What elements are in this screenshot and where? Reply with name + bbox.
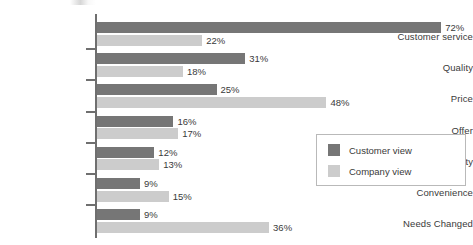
bar-value-label: 72% <box>445 22 464 33</box>
bar-value-label: 25% <box>221 84 240 95</box>
legend-item-company-view: Company view <box>328 165 411 177</box>
axis-tick <box>86 111 95 113</box>
bar-customer-view <box>97 22 441 33</box>
bar-value-label: 9% <box>144 178 158 189</box>
axis-tick <box>86 173 95 175</box>
bar-value-label: 15% <box>173 191 192 202</box>
bar-value-label: 18% <box>187 66 206 77</box>
chart-legend: Customer view Company view <box>316 134 466 186</box>
category-label: Needs Changed <box>385 218 473 229</box>
bar-customer-view <box>97 178 140 189</box>
bar-value-label: 13% <box>163 159 182 170</box>
bar-value-label: 48% <box>330 97 349 108</box>
category-label: Price <box>385 93 473 104</box>
bar-value-label: 12% <box>158 147 177 158</box>
axis-tick <box>86 79 95 81</box>
axis-tick <box>86 142 95 144</box>
bar-value-label: 31% <box>249 53 268 64</box>
bar-chart: Customer serviceQualityPriceOfferFunctio… <box>0 0 473 245</box>
legend-item-customer-view: Customer view <box>328 144 412 156</box>
bar-customer-view <box>97 209 140 220</box>
bar-company-view <box>97 66 183 77</box>
bar-value-label: 9% <box>144 209 158 220</box>
legend-swatch-customer-view <box>328 144 340 156</box>
bar-company-view <box>97 97 326 108</box>
legend-label-customer-view: Customer view <box>349 145 412 156</box>
bar-value-label: 22% <box>206 35 225 46</box>
bar-company-view <box>97 128 178 139</box>
bar-company-view <box>97 159 159 170</box>
bar-value-label: 36% <box>273 222 292 233</box>
legend-swatch-company-view <box>328 165 340 177</box>
bar-company-view <box>97 35 202 46</box>
axis-tick <box>86 204 95 206</box>
bar-company-view <box>97 222 269 233</box>
bar-customer-view <box>97 116 173 127</box>
category-label: Quality <box>385 62 473 73</box>
legend-label-company-view: Company view <box>349 166 411 177</box>
category-label: Convenience <box>385 187 473 198</box>
bar-value-label: 16% <box>177 116 196 127</box>
axis-tick <box>86 48 95 50</box>
bar-company-view <box>97 191 169 202</box>
bar-customer-view <box>97 53 245 64</box>
title-remnant <box>70 0 96 5</box>
bar-customer-view <box>97 147 154 158</box>
bar-customer-view <box>97 84 217 95</box>
bar-value-label: 17% <box>182 128 201 139</box>
